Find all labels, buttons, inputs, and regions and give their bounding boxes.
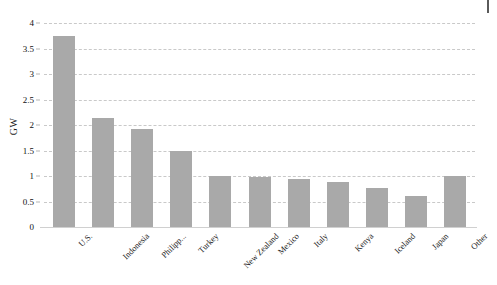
y-tick-mark bbox=[36, 150, 40, 151]
bar[interactable] bbox=[249, 177, 271, 227]
x-tick-label: U.S. bbox=[76, 231, 94, 249]
bar[interactable] bbox=[209, 176, 231, 227]
y-tick-label: 1 bbox=[30, 171, 35, 181]
x-tick-label: Kenya bbox=[352, 231, 375, 254]
bar-series bbox=[44, 23, 475, 227]
y-tick-mark bbox=[36, 74, 40, 75]
bar[interactable] bbox=[405, 196, 427, 227]
plot-area bbox=[44, 23, 475, 227]
bar[interactable] bbox=[170, 151, 192, 228]
y-tick-label: 0 bbox=[30, 222, 35, 232]
y-tick-mark bbox=[36, 201, 40, 202]
bar[interactable] bbox=[366, 188, 388, 227]
y-tick-label: 0.5 bbox=[23, 197, 34, 207]
y-tick-mark bbox=[36, 99, 40, 100]
y-tick-label: 2 bbox=[30, 120, 35, 130]
x-tick-label: Turkey bbox=[196, 231, 220, 255]
x-tick-label: Iceland bbox=[392, 231, 417, 256]
x-tick-label: Indonesia bbox=[120, 231, 150, 261]
bar[interactable] bbox=[53, 36, 75, 227]
y-tick-label: 2.5 bbox=[23, 95, 34, 105]
bar-chart: GW 00.511.522.533.54 U.S.IndonesiaPhilip… bbox=[0, 0, 497, 285]
x-tick-label: Other bbox=[469, 231, 490, 252]
y-tick-mark bbox=[36, 125, 40, 126]
y-tick-label: 3.5 bbox=[23, 44, 34, 54]
x-tick-label: Japan bbox=[430, 231, 451, 252]
y-tick-label: 3 bbox=[30, 69, 35, 79]
y-tick-mark bbox=[36, 176, 40, 177]
y-tick-mark bbox=[36, 23, 40, 24]
y-tick-mark bbox=[36, 48, 40, 49]
y-axis-tick-labels: 00.511.522.533.54 bbox=[0, 23, 40, 227]
bar[interactable] bbox=[288, 179, 310, 227]
x-axis-tick-labels: U.S.IndonesiaPhilipp...TurkeyNew Zealand… bbox=[44, 228, 475, 285]
bar[interactable] bbox=[92, 118, 114, 227]
corner-tick-mark bbox=[487, 0, 489, 13]
x-tick-label: Philipp... bbox=[159, 231, 188, 260]
y-tick-label: 4 bbox=[30, 18, 35, 28]
bar[interactable] bbox=[131, 129, 153, 227]
bar[interactable] bbox=[327, 182, 349, 227]
x-tick-label: Italy bbox=[311, 231, 329, 249]
x-tick-label: New Zealand bbox=[242, 231, 281, 270]
bar[interactable] bbox=[444, 176, 466, 227]
y-tick-label: 1.5 bbox=[23, 146, 34, 156]
